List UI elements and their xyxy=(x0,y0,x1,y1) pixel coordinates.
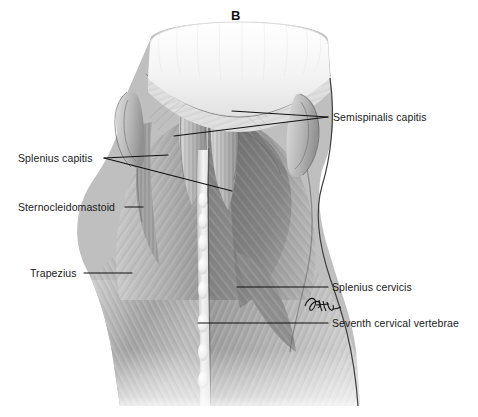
label-sternocleidomastoid: Sternocleidomastoid xyxy=(18,201,115,213)
label-trapezius: Trapezius xyxy=(30,267,77,279)
label-semispinalis-capitis: Semispinalis capitis xyxy=(333,111,427,123)
label-splenius-capitis: Splenius capitis xyxy=(18,152,93,164)
panel-label-b: B xyxy=(231,8,240,23)
label-seventh-cervical-vertebrae: Seventh cervical vertebrae xyxy=(332,317,459,329)
label-splenius-cervicis: Splenius cervicis xyxy=(332,281,412,293)
anatomical-figure: B Semispinalis capitisSplenius capitisSt… xyxy=(0,0,478,417)
